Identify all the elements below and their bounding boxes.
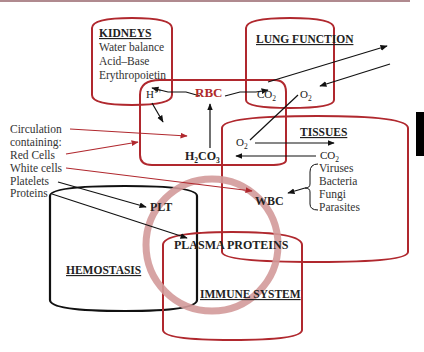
- h2co3-label: H2CO3: [185, 149, 220, 165]
- co2-rbc-label: CO2: [257, 88, 276, 103]
- circulation-line: containing:: [10, 136, 62, 149]
- circulation-line: Proteins: [10, 187, 48, 199]
- o2-lung-label: O2: [300, 88, 312, 103]
- pathogen-item: Parasites: [319, 201, 360, 213]
- pathogen-item: Bacteria: [319, 175, 357, 187]
- rbc-label: RBC: [195, 85, 222, 100]
- diagram-canvas: KIDNEYS Water balance Acid–Base Erythrop…: [0, 0, 424, 352]
- circulation-line: Platelets: [10, 175, 49, 187]
- circulation-line: Red Cells: [10, 149, 56, 161]
- pathogens-brace: [305, 164, 318, 210]
- arrow-red-cells: [66, 142, 138, 154]
- kidneys-item: Acid–Base: [99, 55, 149, 67]
- kidneys-title: KIDNEYS: [99, 27, 151, 39]
- lung-title: LUNG FUNCTION: [256, 33, 354, 45]
- h-ion-label: H1+: [146, 86, 162, 100]
- o2-tissue-label: O2: [236, 136, 248, 151]
- tissues-title: TISSUES: [300, 126, 347, 138]
- arrow-pathogens-to-wbc: [288, 188, 305, 193]
- arrow-h-down: [152, 103, 163, 122]
- arrow-o2-inhale: [320, 64, 390, 86]
- pathogen-item: Viruses: [319, 162, 354, 174]
- circulation-line: White cells: [10, 162, 63, 174]
- immune-title: IMMUNE SYSTEM: [200, 288, 301, 300]
- wbc-label: WBC: [255, 194, 284, 208]
- kidneys-item: Erythropoietin: [99, 69, 166, 82]
- circulation-line: Circulation: [10, 123, 62, 135]
- arrow-circulation: [70, 129, 187, 136]
- arrow-co2-exhale: [268, 46, 387, 82]
- plasma-proteins-label: PLASMA PROTEINS: [174, 238, 289, 252]
- pathogen-item: Fungi: [319, 188, 346, 201]
- hemostasis-title: HEMOSTASIS: [66, 264, 141, 276]
- kidneys-item: Water balance: [99, 41, 164, 53]
- edge-block: [416, 112, 424, 156]
- plt-label: PLT: [150, 200, 172, 214]
